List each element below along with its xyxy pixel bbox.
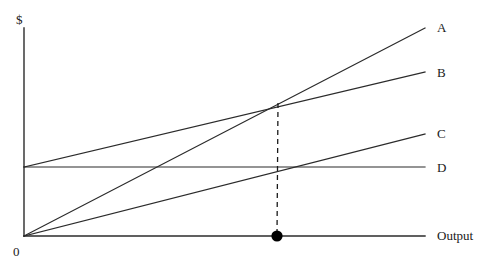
chart-plot-area [0, 0, 500, 267]
curve-label-c: C [437, 127, 446, 140]
y-axis-label: $ [16, 13, 23, 26]
curve-label-a: A [437, 21, 446, 34]
origin-label: 0 [13, 245, 20, 258]
cost-revenue-chart: $ 0 A B C D Output [0, 0, 500, 267]
breakeven-dropline [277, 103, 278, 236]
line-a [24, 28, 425, 236]
line-b [24, 72, 425, 167]
curve-label-b: B [437, 66, 446, 79]
line-c [24, 134, 425, 236]
x-axis-label: Output [437, 229, 473, 242]
breakeven-point-marker [271, 230, 282, 241]
curve-label-d: D [437, 161, 446, 174]
